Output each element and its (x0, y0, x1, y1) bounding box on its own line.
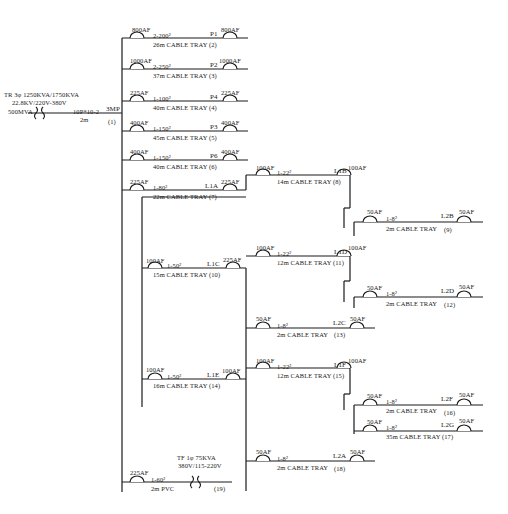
circuit-1-label: (1) (108, 118, 116, 125)
breaker-rating: 50AF (459, 391, 474, 398)
panel-label: L1D (334, 249, 347, 256)
cable-spec: 1-8² (386, 398, 397, 405)
panel-label: L1C (207, 261, 220, 268)
breaker-rating: 50AF (367, 284, 382, 291)
breaker-rating: 50AF (350, 315, 365, 322)
panel-label: L1F (334, 362, 346, 369)
route-label: 15m CABLE TRAY (10) (153, 271, 220, 278)
breaker-rating: 50AF (256, 315, 271, 322)
panel-label: P3 (210, 124, 218, 131)
panel-label: P2 (210, 62, 218, 69)
breaker-rating: 100AF (348, 164, 367, 171)
aux-transformer-voltage: 380V/115-220V (178, 462, 222, 469)
cable-spec: 1-50² (167, 373, 181, 380)
cable-spec: 1-8² (386, 424, 397, 431)
cable-spec: 2-200² (153, 32, 171, 39)
cable-spec: 1-22² (277, 250, 291, 257)
breaker-rating: 1000AF (219, 57, 241, 64)
source-transformer-label: TR 3φ 1250KVA/1750KVA (4, 91, 79, 98)
cable-spec: 1-8² (277, 455, 288, 462)
cable-spec: 1-50² (167, 262, 181, 269)
breaker-rating: 50AF (459, 417, 474, 424)
route-label: 40m CABLE TRAY (4) (153, 104, 217, 111)
route-label: 40m CABLE TRAY (6) (153, 163, 217, 170)
route-label: 35m CABLE TRAY (17) (386, 433, 453, 440)
breaker-rating: 50AF (459, 208, 474, 215)
breaker-rating: 800AF (132, 26, 151, 33)
panel-label: L2D (441, 288, 454, 295)
panel-label: P1 (210, 31, 218, 38)
route-label: 2m CABLE TRAY (386, 407, 437, 414)
route-label: 22m CABLE TRAY (7) (153, 193, 217, 200)
aux-transformer-label: TF 1φ 75KVA (177, 454, 216, 461)
breaker-rating: 100AF (256, 357, 275, 364)
breaker-rating: 50AF (256, 448, 271, 455)
breaker-rating: 400AF (130, 119, 149, 126)
breaker-icons (130, 32, 471, 482)
route-label: 14m CABLE TRAY (8) (277, 178, 341, 185)
breaker-rating: 50AF (367, 208, 382, 215)
breaker-rating: 100AF (146, 257, 165, 264)
source-voltage-label: 22.8KV/220V-380V (12, 99, 67, 106)
route-label: 2m PVC (151, 485, 174, 492)
route-label: 12m CABLE TRAY (15) (277, 372, 344, 379)
panel-label: L1E (207, 372, 219, 379)
cable-spec: 1-22² (277, 363, 291, 370)
route-label: 16m CABLE TRAY (14) (153, 382, 220, 389)
circuit-number: (19) (214, 485, 225, 492)
breaker-rating: 225AF (130, 89, 149, 96)
cable-spec: 1-8² (386, 290, 397, 297)
breaker-rating: 225AF (221, 89, 240, 96)
cable-spec: 1-8² (277, 322, 288, 329)
panel-label: P6 (210, 153, 218, 160)
source-cable-label: 10P*10-2 (73, 108, 99, 115)
breaker-rating: 50AF (367, 392, 382, 399)
breaker-rating: 100AF (222, 367, 241, 374)
cable-spec: 1-80² (153, 184, 167, 191)
route-label: 2m CABLE TRAY (277, 464, 328, 471)
panel-3mp-label: 3MP (106, 106, 120, 113)
breaker-rating: 1000AF (130, 57, 152, 64)
breaker-rating: 400AF (130, 148, 149, 155)
cable-spec: 1-60² (151, 476, 165, 483)
circuit-number: (12) (444, 301, 455, 308)
circuit-number: (13) (334, 331, 345, 338)
panel-label: L2C (333, 320, 346, 327)
breaker-rating: 50AF (459, 283, 474, 290)
panel-label: L2F (441, 396, 453, 403)
fault-level-label: 500MVA (8, 108, 33, 115)
panel-label: L1B (334, 168, 347, 175)
panel-label: L2A (333, 453, 346, 460)
source-length-label: 2m (80, 116, 89, 123)
breaker-rating: 400AF (221, 148, 240, 155)
route-label: 45m CABLE TRAY (5) (153, 134, 217, 141)
breaker-rating: 100AF (256, 164, 275, 171)
route-label: 2m CABLE TRAY (277, 331, 328, 338)
cable-spec: 1-8² (386, 215, 397, 222)
breaker-rating: 50AF (350, 448, 365, 455)
cable-spec: 2-250² (153, 63, 171, 70)
route-label: 37m CABLE TRAY (3) (153, 72, 217, 79)
panel-label: L2G (441, 422, 454, 429)
breaker-rating: 800AF (221, 26, 240, 33)
cable-spec: 1-22² (277, 169, 291, 176)
circuit-number: (16) (444, 409, 455, 416)
cable-spec: 1-100² (153, 95, 171, 102)
circuit-number: (18) (334, 465, 345, 472)
breaker-rating: 225AF (130, 178, 149, 185)
breaker-rating: 100AF (348, 357, 367, 364)
cable-spec: 1-150² (153, 154, 171, 161)
route-label: 26m CABLE TRAY (2) (153, 41, 217, 48)
route-label: 12m CABLE TRAY (11) (277, 259, 344, 266)
panel-label: P4 (210, 94, 218, 101)
panel-label: L1A (205, 183, 218, 190)
breaker-rating: 100AF (256, 244, 275, 251)
panel-label: L2B (441, 213, 454, 220)
circuit-number: (9) (444, 226, 452, 233)
breaker-rating: 400AF (221, 119, 240, 126)
route-label: 2m CABLE TRAY (386, 225, 437, 232)
breaker-rating: 50AF (367, 418, 382, 425)
cable-spec: 1-150² (153, 125, 171, 132)
breaker-rating: 225AF (221, 178, 240, 185)
breaker-rating: 100AF (348, 244, 367, 251)
